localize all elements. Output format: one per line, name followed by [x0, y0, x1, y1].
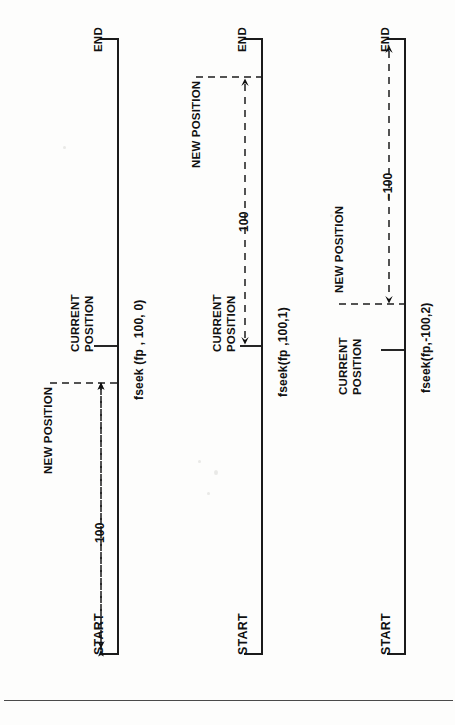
- panel-2-offset-label: 100: [238, 211, 251, 232]
- panel-1-end-label: END: [92, 27, 105, 52]
- panel-1-offset-label: 100: [94, 522, 107, 543]
- scan-speckle: [428, 352, 431, 355]
- page-bottom-rule: [4, 700, 453, 701]
- scan-speckle: [214, 470, 218, 475]
- panel-1-current-position-line2: POSITION: [83, 295, 96, 352]
- panel-2-caption: fseek(fp ,100,1): [277, 307, 290, 397]
- panel-3-end-label: END: [379, 27, 392, 52]
- scan-speckle: [198, 460, 201, 463]
- panel-2-start-label: START: [236, 613, 250, 655]
- panel-3-current-position-line1: CURRENT: [337, 337, 350, 395]
- panel-2-end-label: END: [236, 27, 249, 52]
- panel-1-new-position-label: NEW POSITION: [42, 387, 55, 474]
- scan-speckle: [207, 492, 210, 495]
- panel-1-offset-dimension: [97, 383, 104, 651]
- panel-1-start-label: START: [92, 613, 106, 655]
- panel-3-offset-label: –100: [382, 173, 395, 201]
- scan-speckle: [63, 146, 66, 149]
- panel-3-current-position-line2: POSITION: [351, 338, 364, 395]
- panel-3-start-label: START: [379, 613, 393, 655]
- panel-3-caption: fseek(fp,-100,2): [420, 302, 433, 393]
- panel-2-current-position-line1: CURRENT: [211, 294, 224, 352]
- panel-3-new-position-label: NEW POSITION: [333, 206, 346, 293]
- panel-2-new-position-label: NEW POSITION: [190, 81, 203, 168]
- scanned-figure-page: END START CURRENT POSITION NEW POSITION …: [0, 0, 455, 725]
- panel-1-current-position-line1: CURRENT: [69, 294, 82, 352]
- panel-2-current-position-line2: POSITION: [225, 295, 238, 352]
- panel-1-caption: fseek (fp , 100, 0): [133, 299, 146, 400]
- scan-speckle: [330, 214, 333, 217]
